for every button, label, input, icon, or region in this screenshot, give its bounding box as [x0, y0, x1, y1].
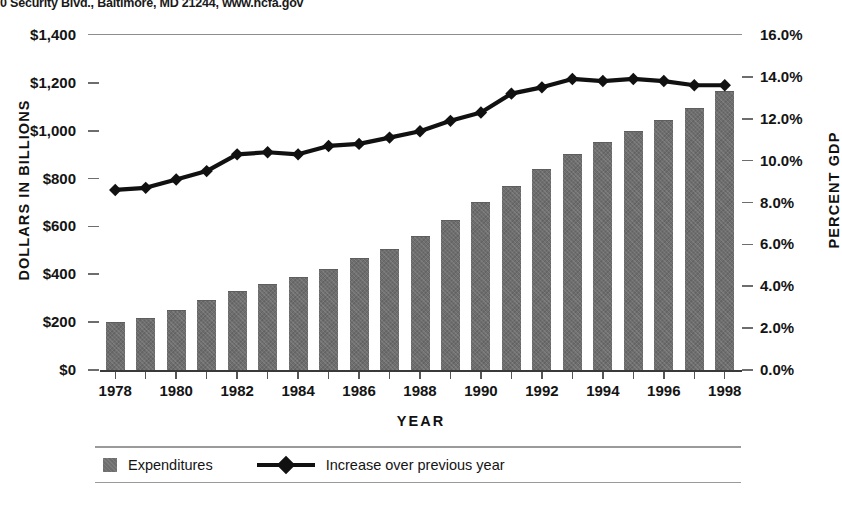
line-marker-diamond [140, 182, 152, 194]
y-left-tick-label: $400 [43, 265, 76, 282]
line-marker-diamond [170, 173, 182, 185]
chart-container: 0 Security Blvd., Baltimore, MD 21244, w… [0, 0, 842, 509]
x-axis-tick-label: 1984 [268, 382, 328, 399]
x-axis-tick-label: 1980 [146, 382, 206, 399]
x-axis-tick-label: 1992 [512, 382, 572, 399]
y-left-tick [88, 273, 99, 275]
line-marker-diamond [109, 184, 121, 196]
line-marker-diamond [688, 79, 700, 91]
legend-line-label: Increase over previous year [326, 457, 505, 473]
y-right-tick-label: 0.0% [760, 361, 794, 378]
y-right-tick-label: 8.0% [760, 194, 794, 211]
y-left-tick [88, 178, 99, 180]
line-marker-diamond [383, 131, 395, 143]
line-marker-diamond [658, 75, 670, 87]
y-axis-right-title: PERCENT GDP [826, 70, 842, 310]
x-axis-tick-label: 1990 [451, 382, 511, 399]
x-axis-line [100, 370, 742, 372]
y-left-tick-label: $1,400 [30, 26, 76, 43]
line-marker-diamond [414, 125, 426, 137]
line-marker-diamond [353, 138, 365, 150]
y-right-tick [742, 327, 753, 329]
legend: Expenditures Increase over previous year [95, 446, 741, 483]
y-left-tick [88, 226, 99, 228]
y-left-tick-label: $800 [43, 170, 76, 187]
x-axis-tick-label: 1998 [695, 382, 755, 399]
y-right-tick [742, 369, 753, 371]
y-left-tick-label: $600 [43, 217, 76, 234]
x-axis-tick-label: 1982 [207, 382, 267, 399]
line-series [100, 35, 740, 370]
line-marker-diamond [536, 81, 548, 93]
legend-line-marker-icon [257, 457, 315, 473]
line-marker-diamond [719, 79, 731, 91]
y-left-tick-label: $0 [59, 361, 76, 378]
line-marker-diamond [322, 140, 334, 152]
y-right-tick [742, 160, 753, 162]
y-right-tick-label: 4.0% [760, 277, 794, 294]
y-left-tick [88, 369, 99, 371]
x-axis-tick-label: 1994 [573, 382, 633, 399]
y-right-tick [742, 118, 753, 120]
y-right-tick-label: 2.0% [760, 319, 794, 336]
y-right-tick [742, 202, 753, 204]
header-text: 0 Security Blvd., Baltimore, MD 21244, w… [0, 0, 842, 10]
x-axis-tick-label: 1996 [634, 382, 694, 399]
cropped-header-text: 0 Security Blvd., Baltimore, MD 21244, w… [0, 0, 842, 10]
x-axis-tick-label: 1978 [85, 382, 145, 399]
line-marker-diamond [292, 148, 304, 160]
y-right-tick-label: 10.0% [760, 152, 803, 169]
y-right-tick-label: 14.0% [760, 68, 803, 85]
x-axis-title: YEAR [0, 413, 842, 429]
x-axis-tick-label: 1986 [329, 382, 389, 399]
legend-bottom-rule [95, 482, 741, 484]
y-right-tick [742, 285, 753, 287]
line-marker-diamond [444, 115, 456, 127]
y-right-tick-label: 16.0% [760, 26, 803, 43]
y-left-tick-label: $1,000 [30, 122, 76, 139]
y-left-tick [88, 321, 99, 323]
y-left-tick-label: $200 [43, 313, 76, 330]
y-right-tick-label: 6.0% [760, 235, 794, 252]
line-marker-diamond [597, 75, 609, 87]
legend-bar-swatch [103, 458, 117, 472]
line-marker-diamond [566, 73, 578, 85]
y-left-tick [88, 82, 99, 84]
x-axis-tick-label: 1988 [390, 382, 450, 399]
y-right-tick [742, 76, 753, 78]
legend-bar-label: Expenditures [128, 457, 213, 473]
y-axis-left-title: DOLLARS IN BILLIONS [16, 70, 32, 310]
y-right-tick [742, 244, 753, 246]
line-marker-diamond [627, 73, 639, 85]
line-marker-diamond [261, 146, 273, 158]
y-right-tick-label: 12.0% [760, 110, 803, 127]
y-left-tick-label: $1,200 [30, 74, 76, 91]
y-left-tick [88, 130, 99, 132]
plot-area [100, 35, 740, 370]
